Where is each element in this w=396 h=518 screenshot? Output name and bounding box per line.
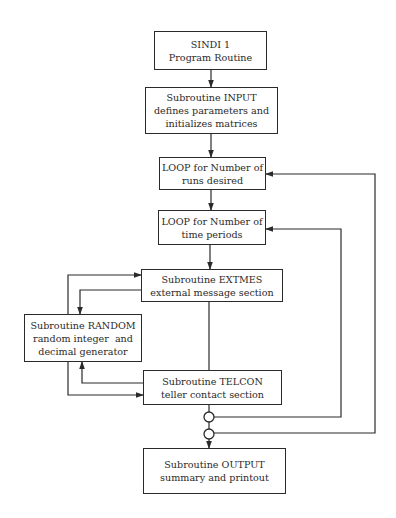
node-subroutine-output: Subroutine OUTPUT summary and printout bbox=[143, 448, 286, 494]
node-label-line: random integer and bbox=[33, 332, 133, 345]
node-label-line: Subroutine OUTPUT bbox=[164, 458, 264, 471]
junction-circle-1 bbox=[204, 412, 214, 422]
node-label-line: decimal generator bbox=[38, 345, 127, 358]
node-label-line: teller contact section bbox=[161, 388, 264, 401]
node-label-line: Program Routine bbox=[169, 51, 252, 64]
node-label-line: runs desired bbox=[182, 174, 243, 187]
node-label-line: summary and printout bbox=[160, 471, 269, 484]
node-label-line: Subroutine EXTMES bbox=[162, 273, 263, 286]
arrow-random-to-extmes bbox=[68, 275, 141, 314]
node-subroutine-extmes: Subroutine EXTMES external message secti… bbox=[141, 269, 283, 302]
node-sindi-program-routine: SINDI 1 Program Routine bbox=[154, 31, 267, 70]
node-label-line: SINDI 1 bbox=[191, 38, 230, 51]
node-label-line: LOOP for Number of bbox=[162, 161, 263, 174]
arrow-telcon-to-random bbox=[82, 362, 143, 383]
node-loop-runs: LOOP for Number of runs desired bbox=[159, 157, 266, 190]
node-label-line: time periods bbox=[181, 228, 242, 241]
node-subroutine-telcon: Subroutine TELCON teller contact section bbox=[143, 370, 282, 405]
node-label-line: external message section bbox=[150, 286, 273, 299]
node-label-line: LOOP for Number of bbox=[161, 215, 262, 228]
node-loop-time-periods: LOOP for Number of time periods bbox=[158, 210, 266, 245]
junction-circle-2 bbox=[204, 429, 214, 439]
node-label-line: Subroutine INPUT bbox=[166, 91, 256, 104]
node-label-line: Subroutine TELCON bbox=[162, 375, 263, 388]
node-label-line: initializes matrices bbox=[165, 117, 257, 130]
node-subroutine-random: Subroutine RANDOM random integer and dec… bbox=[24, 314, 142, 362]
node-label-line: defines parameters and bbox=[154, 104, 269, 117]
arrow-extmes-to-random bbox=[80, 290, 141, 314]
node-subroutine-input: Subroutine INPUT defines parameters and … bbox=[145, 87, 278, 134]
arrow-random-to-telcon bbox=[68, 362, 143, 395]
node-label-line: Subroutine RANDOM bbox=[30, 319, 135, 332]
flowchart-connectors bbox=[0, 0, 396, 518]
